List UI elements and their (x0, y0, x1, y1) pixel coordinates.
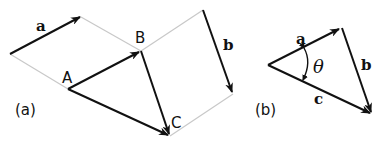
label-b: b (361, 56, 372, 74)
label-c: c (314, 90, 323, 108)
point-A: A (62, 69, 73, 87)
panel-a: a b A B C (a) (10, 10, 234, 136)
label-a: a (296, 30, 306, 48)
point-C: C (171, 114, 181, 132)
caption-b: (b) (255, 101, 276, 119)
vector-AB (68, 52, 139, 89)
vector-diagram: a b A B C (a) a θ b c (b) (0, 0, 384, 144)
vector-BC (141, 51, 169, 134)
vector-AC (68, 89, 168, 135)
label-b: b (223, 36, 234, 54)
point-B: B (135, 29, 145, 47)
label-a: a (36, 17, 46, 35)
label-theta: θ (313, 56, 324, 77)
panel-b: a θ b c (b) (255, 28, 372, 119)
angle-arc (303, 48, 308, 80)
caption-a: (a) (15, 101, 36, 119)
